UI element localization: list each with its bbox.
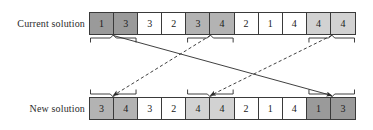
bottom-brace-3 — [309, 90, 355, 98]
new-cell-7: 2 — [235, 98, 259, 119]
brace-group — [91, 35, 355, 97]
new-cell-5: 4 — [186, 98, 210, 119]
new-cell-2: 4 — [114, 98, 138, 119]
arrow-block3-to-block2 — [210, 36, 331, 96]
current-cell-2: 3 — [114, 13, 138, 34]
new-cell-3: 3 — [138, 98, 162, 119]
new-cell-8: 1 — [259, 98, 283, 119]
new-cell-11: 3 — [331, 98, 355, 119]
current-cell-7: 2 — [235, 13, 259, 34]
top-brace-3 — [309, 35, 355, 43]
new-cell-6: 4 — [210, 98, 234, 119]
top-brace-1 — [91, 35, 137, 43]
current-cell-11: 4 — [331, 13, 355, 34]
arrow-group — [113, 36, 331, 96]
new-solution-strip: 34324421413 — [89, 97, 356, 120]
new-cell-1: 3 — [90, 98, 114, 119]
current-cell-8: 1 — [259, 13, 283, 34]
top-brace-2 — [188, 35, 234, 43]
current-cell-6: 4 — [210, 13, 234, 34]
current-cell-4: 2 — [162, 13, 186, 34]
new-cell-9: 4 — [283, 98, 307, 119]
bottom-brace-1 — [91, 90, 137, 98]
figure-canvas: Current solution 13323421444 New solutio… — [0, 0, 373, 130]
new-cell-4: 2 — [162, 98, 186, 119]
current-solution-label: Current solution — [0, 18, 85, 29]
current-cell-3: 3 — [138, 13, 162, 34]
new-solution-label: New solution — [0, 103, 85, 114]
current-cell-5: 3 — [186, 13, 210, 34]
arrow-block1-to-block3 — [113, 36, 331, 96]
current-cell-1: 1 — [90, 13, 114, 34]
current-cell-9: 4 — [283, 13, 307, 34]
current-cell-10: 4 — [307, 13, 331, 34]
arrow-block2-to-block1 — [113, 36, 210, 96]
new-cell-10: 1 — [307, 98, 331, 119]
current-solution-strip: 13323421444 — [89, 12, 356, 35]
bottom-brace-2 — [188, 90, 234, 98]
